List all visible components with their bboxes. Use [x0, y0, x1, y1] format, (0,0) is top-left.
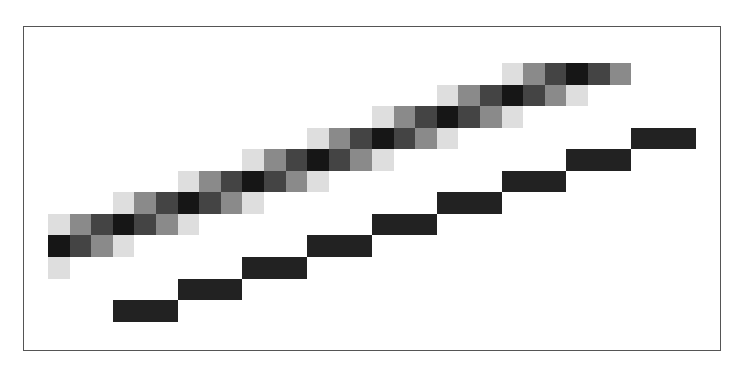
pixel-cell: [156, 214, 178, 235]
pixel-cell: [286, 171, 307, 192]
pixel-cell: [523, 63, 545, 85]
pixel-cell: [199, 192, 221, 214]
pixel-run: [307, 235, 372, 257]
pixel-cell: [566, 63, 588, 85]
pixel-cell: [91, 235, 113, 257]
pixel-cell: [286, 149, 307, 171]
pixel-cell: [437, 128, 458, 149]
pixel-cell: [437, 85, 458, 106]
pixel-cell: [458, 106, 480, 128]
pixel-cell: [264, 149, 286, 171]
pixel-cell: [307, 149, 329, 171]
pixel-cell: [113, 235, 134, 257]
pixel-cell: [372, 106, 394, 128]
pixel-cell: [502, 106, 523, 128]
pixel-cell: [458, 85, 480, 106]
pixel-run: [566, 149, 631, 171]
pixel-cell: [480, 85, 502, 106]
pixel-cell: [178, 171, 199, 192]
pixel-cell: [329, 149, 350, 171]
pixel-cell: [523, 85, 545, 106]
pixel-run: [113, 300, 178, 322]
pixel-cell: [91, 214, 113, 235]
pixel-cell: [610, 63, 631, 85]
pixel-cell: [588, 63, 610, 85]
pixel-run: [631, 128, 696, 149]
pixel-cell: [437, 106, 458, 128]
pixel-cell: [221, 192, 242, 214]
pixel-cell: [113, 214, 134, 235]
pixel-cell: [156, 192, 178, 214]
pixel-cell: [178, 214, 199, 235]
pixel-cell: [545, 85, 566, 106]
pixel-cell: [307, 128, 329, 149]
pixel-cell: [178, 192, 199, 214]
pixel-cell: [242, 171, 264, 192]
pixel-run: [372, 214, 437, 235]
pixel-cell: [242, 149, 264, 171]
pixel-cell: [394, 128, 415, 149]
pixel-cell: [242, 192, 264, 214]
pixel-cell: [350, 149, 372, 171]
pixel-cell: [415, 128, 437, 149]
pixel-cell: [394, 106, 415, 128]
pixel-cell: [502, 63, 523, 85]
pixel-cell: [415, 106, 437, 128]
pixel-cell: [545, 63, 566, 85]
pixel-cell: [199, 171, 221, 192]
pixel-cell: [48, 214, 70, 235]
pixel-cell: [113, 192, 134, 214]
pixel-cell: [502, 85, 523, 106]
pixel-cell: [307, 171, 329, 192]
pixel-run: [178, 279, 242, 300]
pixel-cell: [264, 171, 286, 192]
pixel-cell: [372, 128, 394, 149]
pixel-run: [437, 192, 502, 214]
pixel-cell: [48, 257, 70, 279]
pixel-cell: [350, 128, 372, 149]
pixel-cell: [134, 214, 156, 235]
pixel-run: [502, 171, 566, 192]
pixel-cell: [70, 235, 91, 257]
pixel-cell: [134, 192, 156, 214]
pixel-cell: [48, 235, 70, 257]
pixel-cell: [221, 171, 242, 192]
pixel-run: [242, 257, 307, 279]
pixel-cell: [372, 149, 394, 171]
pixel-cell: [70, 214, 91, 235]
pixel-cell: [480, 106, 502, 128]
pixel-cell: [566, 85, 588, 106]
pixel-cell: [329, 128, 350, 149]
